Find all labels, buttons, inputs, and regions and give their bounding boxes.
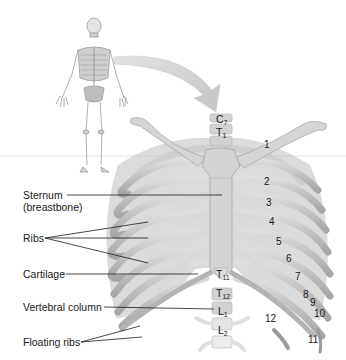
vertebra-t12: T12	[216, 288, 230, 302]
rib-number-4: 4	[269, 216, 275, 227]
vertebra-l1: L1	[218, 306, 228, 320]
label-vertebral-column: Vertebral column	[23, 301, 102, 313]
rib-number-11: 11	[308, 334, 318, 345]
rib-number-10: 10	[314, 308, 325, 319]
vertebra-t11: T11	[216, 269, 230, 283]
rib-number-9: 9	[310, 297, 316, 308]
label-floating-ribs: Floating ribs	[23, 336, 80, 348]
vertebra-l2: L2	[218, 325, 228, 339]
label-cartilage: Cartilage	[23, 268, 65, 280]
label-sternum: Sternum	[23, 189, 63, 201]
vertebra-t1: T1	[216, 127, 226, 141]
rib-number-5: 5	[276, 236, 282, 247]
full-skeleton-icon	[56, 18, 128, 172]
rib-number-3: 3	[266, 197, 272, 208]
rib-number-1: 1	[264, 139, 270, 150]
label-sternum-alt: (breastbone)	[23, 201, 83, 213]
rib-number-7: 7	[295, 271, 301, 282]
thoracic-cage-figure: Sternum (breastbone) Ribs Cartilage Vert…	[0, 0, 346, 360]
label-ribs: Ribs	[23, 232, 44, 244]
rib-number-6: 6	[286, 253, 292, 264]
rib-number-8: 8	[303, 289, 309, 300]
zoom-arrow-icon	[114, 56, 220, 112]
rib-number-12: 12	[265, 313, 276, 324]
rib-number-2: 2	[264, 176, 270, 187]
